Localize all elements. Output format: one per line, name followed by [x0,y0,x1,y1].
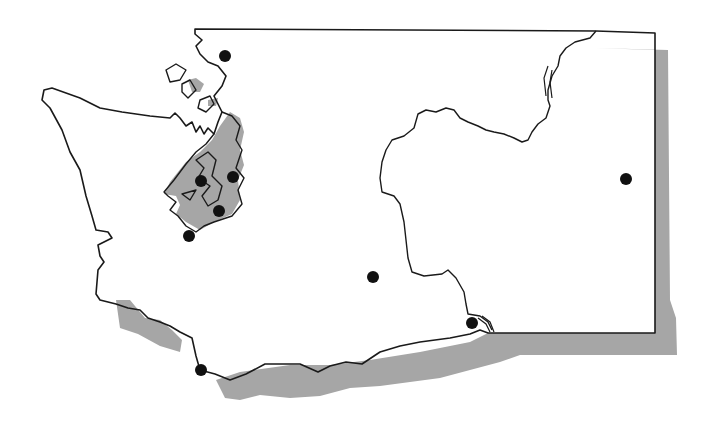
marker-dot[interactable] [466,317,478,329]
map-markers [183,50,632,376]
marker-dot[interactable] [219,50,231,62]
marker-dot[interactable] [367,271,379,283]
marker-dot[interactable] [195,175,207,187]
marker-dot[interactable] [213,205,225,217]
map-canvas [0,0,712,421]
columbia-river [380,31,596,330]
marker-dot[interactable] [195,364,207,376]
washington-map [0,0,712,421]
marker-dot[interactable] [620,173,632,185]
marker-dot[interactable] [227,171,239,183]
marker-dot[interactable] [183,230,195,242]
